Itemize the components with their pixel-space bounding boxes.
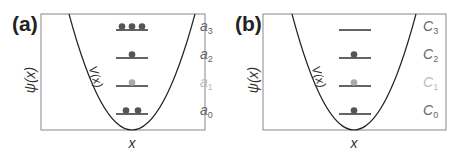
level-label-c1: C1	[423, 74, 438, 92]
energy-level-a2	[116, 51, 148, 58]
particle-dot	[129, 23, 136, 30]
energy-level-a1	[116, 79, 148, 86]
x-axis-label-a: x	[128, 135, 137, 151]
level-label-c3: C3	[423, 18, 438, 36]
particle-dot	[129, 51, 136, 58]
level-label-a3: a3	[200, 18, 213, 36]
panel-label-b: (b)	[235, 12, 262, 35]
energy-level-c1	[339, 79, 371, 86]
curve-label-b: V(x)	[309, 64, 329, 89]
panel-b: (b) ψ(x) x V(x) C3 C2 C1 C0	[235, 12, 446, 151]
particle-dot-light	[351, 79, 358, 86]
y-axis-label-b: ψ(x)	[245, 67, 261, 94]
particle-dot	[351, 107, 358, 114]
energy-level-c0	[339, 107, 371, 114]
particle-dot	[123, 107, 130, 114]
panel-a: (a) ψ(x) x V(x) a3 a2 a1	[12, 12, 213, 151]
particle-dot	[139, 23, 146, 30]
particle-dot	[351, 51, 358, 58]
level-label-a2: a2	[200, 46, 213, 64]
figure: (a) ψ(x) x V(x) a3 a2 a1	[0, 0, 459, 154]
level-label-c0: C0	[423, 102, 438, 120]
level-label-a0: a0	[200, 102, 213, 120]
particle-dot	[119, 23, 126, 30]
energy-level-c2	[339, 51, 371, 58]
level-label-c2: C2	[423, 46, 438, 64]
particle-dot-light	[129, 79, 136, 86]
y-axis-label-a: ψ(x)	[22, 67, 38, 94]
energy-level-a0	[116, 107, 148, 114]
frame-a	[41, 14, 205, 130]
curve-label-a: V(x)	[86, 64, 106, 89]
particle-dot	[135, 107, 142, 114]
energy-level-a3	[116, 23, 148, 30]
panel-label-a: (a)	[12, 12, 38, 35]
level-label-a1: a1	[200, 74, 213, 92]
x-axis-label-b: x	[350, 135, 359, 151]
